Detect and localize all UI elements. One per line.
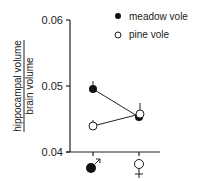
meadow-vole-line (93, 89, 139, 117)
meadow-male-point (89, 85, 97, 93)
y-axis-label: hippocampal volume brain volume (12, 40, 35, 132)
pine-male-point (89, 122, 97, 130)
svg-text:hippocampal volume: hippocampal volume (12, 40, 23, 132)
legend-pine-label: pine vole (129, 29, 169, 40)
legend-meadow-marker (115, 13, 121, 19)
y-tick-0.05: 0.05 (42, 80, 63, 92)
pine-vole-line (93, 114, 140, 126)
legend-pine-marker (115, 32, 121, 38)
legend-meadow-label: meadow vole (129, 11, 188, 22)
y-tick-0.04: 0.04 (42, 146, 63, 158)
pine-female-point (136, 110, 144, 118)
chart: 0.06 0.05 0.04 hippocampal volume brain … (0, 0, 206, 181)
y-tick-0.06: 0.06 (42, 14, 63, 26)
male-symbol-icon (86, 159, 100, 173)
svg-text:brain volume: brain volume (24, 57, 35, 115)
female-symbol-icon (135, 160, 144, 179)
